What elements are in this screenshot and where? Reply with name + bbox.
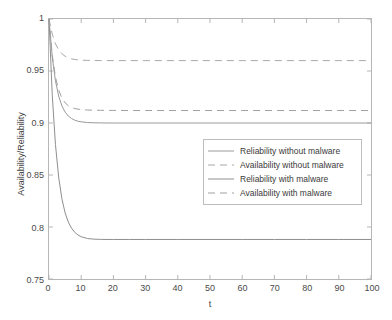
series-line-0 <box>49 19 371 123</box>
y-tick-label: 0.9 <box>31 118 44 127</box>
x-tick-label: 80 <box>302 284 312 293</box>
y-tick-label: 0.85 <box>26 171 44 180</box>
figure: 0.750.80.850.90.951 Availability/Reliabi… <box>0 0 392 320</box>
x-tick-label: 100 <box>364 284 379 293</box>
series-line-1 <box>49 19 371 61</box>
x-axis-label: t <box>48 299 372 309</box>
legend-item[interactable]: Reliability without malware <box>204 144 361 158</box>
x-tick-label: 30 <box>140 284 150 293</box>
x-tick-label: 90 <box>335 284 345 293</box>
x-tick-label: 0 <box>45 284 50 293</box>
legend-item-label: Availability without malware <box>240 161 344 170</box>
y-tick-label: 0.8 <box>31 223 44 232</box>
x-axis-tick-labels: 0102030405060708090100 <box>48 284 372 298</box>
y-tick-label: 1 <box>39 14 44 23</box>
y-tick-label: 0.75 <box>26 276 44 285</box>
legend-item-label: Availability with malware <box>240 189 332 198</box>
legend-item-label: Reliability without malware <box>240 147 340 156</box>
x-tick-label: 70 <box>270 284 280 293</box>
series-line-3 <box>49 19 371 111</box>
legend-line-swatch-icon <box>208 174 234 184</box>
legend: Reliability without malwareAvailability … <box>203 139 362 205</box>
y-tick-label: 0.95 <box>26 66 44 75</box>
x-tick-label: 10 <box>75 284 85 293</box>
legend-line-swatch-icon <box>208 188 234 198</box>
legend-line-swatch-icon <box>208 160 234 170</box>
x-tick-label: 40 <box>173 284 183 293</box>
series-line-2 <box>49 19 371 239</box>
x-tick-label: 60 <box>237 284 247 293</box>
x-tick-label: 50 <box>205 284 215 293</box>
legend-item[interactable]: Availability with malware <box>204 186 361 200</box>
legend-item[interactable]: Availability without malware <box>204 158 361 172</box>
x-tick-label: 20 <box>108 284 118 293</box>
legend-item[interactable]: Reliability with malware <box>204 172 361 186</box>
y-axis-label: Availability/Reliability <box>16 64 26 244</box>
legend-item-label: Reliability with malware <box>240 175 328 184</box>
legend-line-swatch-icon <box>208 146 234 156</box>
